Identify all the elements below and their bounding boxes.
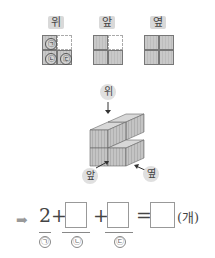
unit-label: (개) [177,207,199,226]
front-cell-empty [108,35,123,50]
front-cell [93,50,108,65]
side-view-grid [144,35,174,65]
side-cell [159,50,174,65]
top-cell-empty [57,35,72,50]
side-view-label: 옆 [150,16,166,29]
sub-label-a: ㉠ [39,236,51,248]
sub-label-c: ㉢ [114,236,126,248]
figure-side-tag: 옆 [143,166,159,182]
underline-a [39,232,51,233]
isometric-cubes-figure [80,100,150,170]
top-view-label: 위 [48,16,64,29]
side-cell [144,50,159,65]
side-cell [144,35,159,50]
figure-front-tag: 앞 [82,168,98,184]
marker-a: ㉠ [45,38,57,50]
value-a: 2 [39,204,51,226]
answer-box-total[interactable] [150,202,175,228]
front-view-grid [93,35,123,65]
top-view-grid: ㉠ ㉡ ㉢ [42,35,72,65]
answer-box-c[interactable] [107,202,129,228]
sub-label-b: ㉡ [71,236,83,248]
front-cell [93,35,108,50]
top-cell-a: ㉠ [42,35,57,50]
answer-box-b[interactable] [65,202,87,228]
front-arrow-icon [96,160,110,170]
figure-top-tag: 위 [100,84,116,100]
top-cell-c: ㉢ [57,50,72,65]
marker-b: ㉡ [45,53,57,65]
front-view-label: 앞 [99,16,115,29]
underline-b [62,232,90,233]
marker-c: ㉢ [60,53,72,65]
underline-c [105,232,133,233]
result-arrow-icon: ➡ [16,212,28,228]
side-cell [159,35,174,50]
front-cell [108,50,123,65]
top-cell-b: ㉡ [42,50,57,65]
